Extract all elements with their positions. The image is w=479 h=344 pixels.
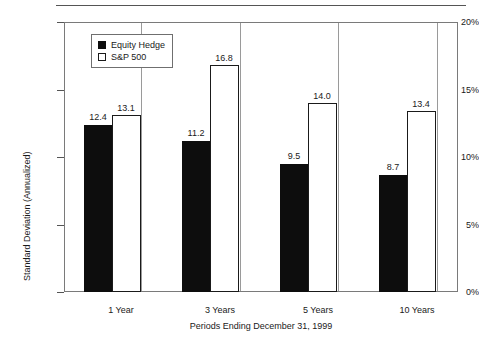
bar-label-sp500-3-years: 16.8 bbox=[204, 54, 244, 63]
category-separator-2 bbox=[240, 23, 241, 291]
bar-label-sp500-5-years: 14.0 bbox=[302, 92, 342, 101]
category-separator-3 bbox=[338, 23, 339, 291]
bar-sp500-1-year bbox=[112, 115, 141, 292]
legend-item-equity-hedge: Equity Hedge bbox=[98, 39, 165, 51]
x-tick-label-10-years: 10 Years bbox=[368, 306, 466, 315]
chart-legend: Equity Hedge S&P 500 bbox=[91, 34, 173, 68]
legend-label-sp500: S&P 500 bbox=[111, 53, 146, 62]
category-separator-4 bbox=[437, 23, 438, 291]
y-tick-mark-20 bbox=[57, 22, 64, 23]
x-tick-label-5-years: 5 Years bbox=[269, 306, 367, 315]
y-tick-mark-5 bbox=[57, 225, 64, 226]
x-axis-title: Periods Ending December 31, 1999 bbox=[64, 321, 458, 331]
x-tick-label-1-year: 1 Year bbox=[72, 306, 170, 315]
y-tick-mark-10 bbox=[57, 157, 64, 158]
y-tick-mark-15 bbox=[57, 90, 64, 91]
bar-label-sp500-10-years: 13.4 bbox=[401, 100, 441, 109]
bar-equity-hedge-3-years bbox=[182, 141, 210, 292]
legend-swatch-filled-square-icon bbox=[98, 41, 106, 49]
bar-sp500-10-years bbox=[407, 111, 436, 292]
legend-item-sp500: S&P 500 bbox=[98, 51, 165, 63]
chart-figure: 20% 15% 10% 5% 0% Standard Deviation (An… bbox=[0, 0, 479, 344]
x-tick-label-3-years: 3 Years bbox=[171, 306, 269, 315]
bar-label-sp500-1-year: 13.1 bbox=[106, 104, 146, 113]
header-divider-rule bbox=[56, 5, 466, 6]
y-tick-mark-0 bbox=[57, 292, 64, 293]
legend-swatch-open-square-icon bbox=[98, 53, 106, 61]
bar-sp500-3-years bbox=[210, 65, 239, 292]
bar-equity-hedge-10-years bbox=[379, 175, 407, 292]
bar-equity-hedge-5-years bbox=[280, 164, 308, 292]
bar-sp500-5-years bbox=[308, 103, 337, 292]
y-axis-title: Standard Deviation (Annualized) bbox=[22, 151, 32, 281]
bar-equity-hedge-1-year bbox=[84, 125, 112, 292]
legend-label-equity-hedge: Equity Hedge bbox=[111, 41, 165, 50]
